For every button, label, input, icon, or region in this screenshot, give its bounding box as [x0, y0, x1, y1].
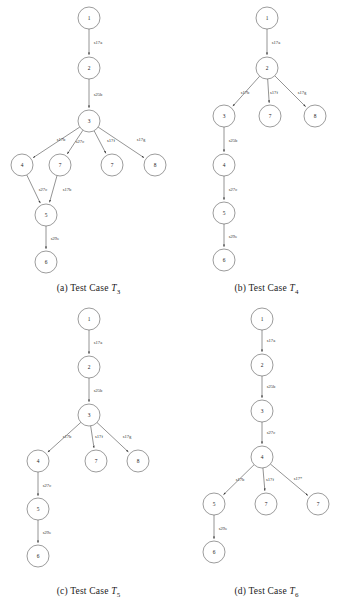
edge-label: s27c [267, 430, 275, 435]
edge-n3-to-n4: s17b [33, 127, 80, 158]
node-label: 7 [269, 113, 272, 119]
edge-label: s29e [229, 234, 237, 239]
graph-node[interactable]: 8 [304, 105, 326, 127]
edge-n2-to-n7: s17f [268, 79, 279, 103]
graph-node[interactable]: 2 [256, 57, 278, 79]
graph-node[interactable]: 2 [78, 57, 100, 79]
edge-line [98, 127, 144, 158]
graph-node[interactable]: 6 [27, 545, 49, 567]
graph-node[interactable]: 5 [27, 498, 49, 520]
edge-n2-to-n3: s25b [89, 79, 103, 108]
edge-n3-to-n4: s25b [224, 127, 238, 152]
edge-n4-to-n5: s27c [38, 472, 51, 496]
node-label: 7 [59, 162, 62, 168]
node-label: 6 [213, 549, 216, 555]
graph-node[interactable]: 2 [78, 356, 100, 378]
edge-label: s29e [51, 236, 59, 241]
graph-node[interactable]: 4 [213, 154, 235, 176]
graph-node[interactable]: 1 [78, 7, 100, 29]
graph-node[interactable]: 3 [78, 404, 100, 426]
edge-label: s17f [270, 90, 278, 95]
graph-node[interactable]: 5 [35, 204, 57, 226]
edge-n3-to-n7: s17f [91, 426, 104, 448]
edge-label: s17g [123, 434, 132, 439]
graph-node[interactable]: 6 [35, 251, 57, 273]
node-label: 4 [21, 162, 24, 168]
edge-label: s17b [236, 477, 245, 482]
graph-node[interactable]: 3 [78, 110, 100, 132]
graph-node[interactable]: 7 [101, 154, 123, 176]
graph-node[interactable]: 7 [255, 493, 277, 515]
edge-n4-to-n5: s27c [224, 176, 237, 200]
caption-d-prefix: (d) Test Case [234, 586, 289, 596]
edge-line [33, 127, 80, 158]
edge-label: s17b [63, 187, 72, 192]
node-label: 5 [45, 212, 48, 218]
edge-label: s25b [94, 92, 103, 97]
edge-label: s17f [266, 477, 274, 482]
edge-n3-to-n4: s17b [48, 422, 81, 452]
edge-label: s17g [298, 90, 307, 95]
caption-a-subscript: 3 [117, 288, 121, 296]
caption-c-subscript: 5 [117, 591, 121, 599]
node-label: 4 [223, 162, 226, 168]
graph-node[interactable]: 4 [27, 450, 49, 472]
graph-node[interactable]: 6 [203, 541, 225, 563]
graph-node[interactable]: 4 [11, 154, 33, 176]
node-label: 8 [154, 162, 157, 168]
edge-label: s27c [39, 187, 47, 192]
edge-label: s17a [94, 40, 102, 45]
edge-n2-to-n8: s17g [275, 76, 307, 107]
node-label: 5 [223, 210, 226, 216]
graph-node[interactable]: 1 [256, 7, 278, 29]
edge-label: s25b [267, 384, 276, 389]
graph-node[interactable]: 8 [127, 450, 149, 472]
graph-node[interactable]: 3 [251, 400, 273, 422]
graph-node[interactable]: 3 [213, 105, 235, 127]
graph-node[interactable]: 1 [251, 308, 273, 330]
graph-c: s17as25bs17bs17fs17gs27cs29e12347856 [0, 303, 177, 578]
graph-node[interactable]: 7 [49, 154, 71, 176]
graph-node[interactable]: 2 [251, 354, 273, 376]
edge-label: s29e [43, 530, 51, 535]
graph-node[interactable]: 7 [85, 450, 107, 472]
panel-test-case-b: s17as17bs17fs17gs25bs27cs29e12378456 (b)… [178, 0, 355, 302]
edge-n2-to-n3: s25b [89, 378, 103, 402]
graph-node[interactable]: 5 [213, 202, 235, 224]
caption-b-prefix: (b) Test Case [234, 283, 289, 293]
node-label: 4 [261, 454, 264, 460]
edge-n4-to-n7a: s17f [263, 468, 274, 491]
node-label: 2 [266, 65, 269, 71]
caption-c-prefix: (c) Test Case [57, 586, 111, 596]
graph-node[interactable]: 5 [203, 493, 225, 515]
graph-node[interactable]: 8 [144, 154, 166, 176]
edge-label: s29e [219, 526, 227, 531]
graph-a: s17as25bs17bs27cs17fs17gs27cs17bs29e1234… [0, 0, 177, 275]
node-label: 6 [37, 553, 40, 559]
edge-n5-to-n6: s29e [38, 520, 51, 543]
edge-label: s27c [43, 483, 51, 488]
node-label: 7 [111, 162, 114, 168]
graph-node[interactable]: 6 [213, 249, 235, 271]
graph-node[interactable]: 1 [78, 308, 100, 330]
figure-container: s17as25bs17bs27cs17fs17gs27cs17bs29e1234… [0, 0, 355, 605]
edge-n7a-to-n5: s17b [50, 176, 72, 203]
edge-n4-to-n5: s17b [223, 465, 254, 495]
edge-label: s17a [272, 40, 280, 45]
node-label: 7 [317, 501, 320, 507]
node-label: 3 [223, 113, 226, 119]
edge-label: s17b [57, 137, 66, 142]
node-label: 1 [261, 316, 264, 322]
graph-node[interactable]: 7 [307, 493, 329, 515]
edge-n3-to-n7b: s17f [94, 131, 115, 154]
edge-line [268, 79, 269, 103]
graph-node[interactable]: 7 [259, 105, 281, 127]
graph-node[interactable]: 4 [251, 446, 273, 468]
node-label: 6 [45, 259, 48, 265]
edge-n2-to-n3: s17b [233, 76, 260, 106]
graph-b: s17as17bs17fs17gs25bs27cs29e12378456 [178, 0, 355, 275]
edge-n2-to-n3: s25b [262, 376, 276, 398]
edge-n1-to-n2: s17a [89, 330, 102, 354]
edge-label: s25b [229, 138, 238, 143]
node-label: 5 [213, 501, 216, 507]
